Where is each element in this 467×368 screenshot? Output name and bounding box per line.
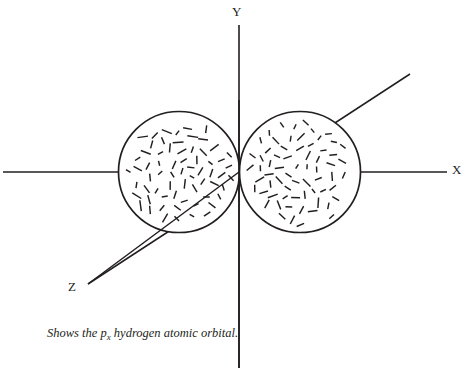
orbital-dash — [325, 134, 332, 135]
caption-text-before: Shows the p — [47, 326, 107, 340]
right-orbital-lobe — [240, 112, 361, 233]
orbital-dash — [329, 155, 337, 156]
orbital-dash — [169, 143, 170, 152]
orbital-dash — [320, 150, 326, 151]
figure-caption: Shows the px hydrogen atomic orbital. — [47, 326, 238, 341]
axis-label-x: X — [452, 163, 461, 176]
orbital-diagram-canvas — [0, 0, 467, 368]
caption-text-after: hydrogen atomic orbital. — [111, 326, 238, 340]
left-orbital-lobe — [119, 112, 240, 233]
orbital-dash — [150, 206, 151, 214]
orbital-dash — [290, 136, 291, 142]
orbital-dash — [318, 197, 319, 208]
orbital-dash — [206, 125, 207, 133]
axis-label-z: Z — [68, 280, 76, 293]
orbital-dash — [332, 172, 333, 181]
orbital-dash — [162, 196, 168, 197]
orbital-dash — [136, 182, 137, 188]
orbital-dash — [304, 191, 305, 199]
orbital-dash — [173, 142, 184, 143]
orbital-dash — [150, 174, 151, 182]
orbital-dash — [270, 180, 271, 187]
orbital-dash — [187, 167, 194, 168]
caption-subscript: x — [107, 332, 111, 342]
p-orbital-figure: Y X Z Shows the px hydrogen atomic orbit… — [0, 0, 467, 368]
axis-label-y: Y — [232, 5, 241, 18]
